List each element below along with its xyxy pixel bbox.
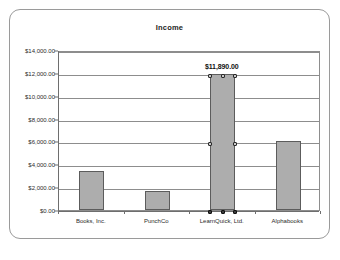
- gridline: [59, 98, 319, 99]
- gridline: [59, 75, 319, 76]
- bar-alphabooks[interactable]: [276, 141, 301, 210]
- x-axis-label: Books, Inc.: [76, 218, 106, 224]
- y-axis-tick-label: $8,000.00: [28, 117, 55, 123]
- chart-object-frame[interactable]: Income $0.00$2,000.00$4,000.00$6,000.00$…: [9, 9, 330, 239]
- x-axis: Books, Inc.PunchCoLearnQuick, Ltd.Alphab…: [58, 211, 320, 237]
- y-axis-tick-label: $14,000.00: [25, 48, 55, 54]
- x-axis-tick-mark: [255, 211, 256, 214]
- x-axis-tick-mark: [320, 211, 321, 214]
- y-axis-tick-group: $0.00$2,000.00$4,000.00$6,000.00$8,000.0…: [10, 51, 55, 211]
- y-axis-tick-label: $2,000.00: [28, 185, 55, 191]
- x-axis-tick-mark: [124, 211, 125, 214]
- selection-handle[interactable]: [208, 142, 212, 146]
- x-axis-label: PunchCo: [144, 218, 169, 224]
- x-axis-label: LearnQuick, Ltd.: [200, 218, 244, 224]
- y-axis-tick-label: $10,000.00: [25, 94, 55, 100]
- y-axis-tick-label: $12,000.00: [25, 71, 55, 77]
- y-axis-tick-label: $6,000.00: [28, 139, 55, 145]
- x-axis-tick-mark: [189, 211, 190, 214]
- y-axis-line: [58, 51, 59, 211]
- gridline: [59, 121, 319, 122]
- selection-handle[interactable]: [233, 74, 237, 78]
- selection-handle[interactable]: [233, 142, 237, 146]
- x-axis-tick-mark: [58, 211, 59, 214]
- x-axis-label: Alphabooks: [272, 218, 303, 224]
- y-axis-tick-label: $4,000.00: [28, 162, 55, 168]
- selection-handle[interactable]: [208, 74, 212, 78]
- bar-learnquick-ltd[interactable]: [210, 74, 235, 210]
- y-axis-tick-label: $0.00: [40, 208, 55, 214]
- data-label-learnquick[interactable]: $11,890.00: [205, 63, 239, 70]
- chart-title[interactable]: Income: [10, 23, 329, 32]
- gridline: [59, 52, 319, 53]
- selection-handle[interactable]: [221, 74, 225, 78]
- bar-books-inc[interactable]: [79, 171, 104, 210]
- plot-area[interactable]: [58, 51, 320, 211]
- bar-punchco[interactable]: [145, 191, 170, 210]
